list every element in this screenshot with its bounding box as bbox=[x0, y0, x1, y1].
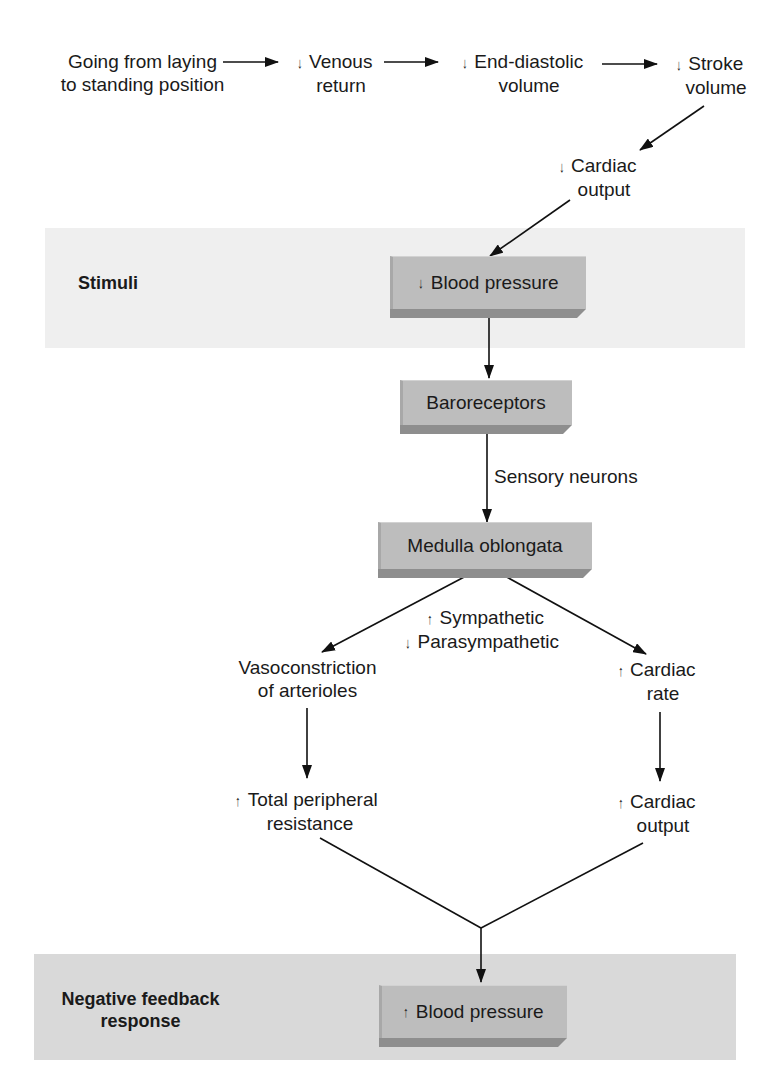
node-posture: Going from laying to standing position bbox=[60, 50, 225, 96]
decrease-arrow-icon: ↓ bbox=[418, 274, 423, 291]
node-venous-return: ↓Venous return bbox=[284, 50, 384, 97]
increase-arrow-icon: ↑ bbox=[427, 607, 432, 630]
node-vasoconstriction: Vasoconstriction of arterioles bbox=[225, 656, 390, 702]
decrease-arrow-icon: ↓ bbox=[297, 51, 302, 74]
node-cardiac-output-decrease: ↓Cardiac output bbox=[552, 154, 642, 201]
node-tpr-line1: Total peripheral bbox=[248, 789, 378, 810]
box-medulla-oblongata-label: Medulla oblongata bbox=[407, 535, 562, 557]
node-cardiac-rate-line2: rate bbox=[608, 682, 704, 705]
node-venous-return-line2: return bbox=[284, 74, 384, 97]
box-baroreceptors: Baroreceptors bbox=[400, 380, 572, 434]
box-blood-pressure-decrease: ↓ Blood pressure bbox=[390, 256, 586, 318]
increase-arrow-icon: ↑ bbox=[403, 1003, 408, 1020]
edge-label-sensory-neurons: Sensory neurons bbox=[494, 465, 638, 488]
node-cardiac-rate-line1: Cardiac bbox=[630, 659, 695, 680]
box-blood-pressure-decrease-label: Blood pressure bbox=[431, 272, 559, 294]
node-cardiac-output-inc-line1: Cardiac bbox=[630, 791, 695, 812]
increase-arrow-icon: ↑ bbox=[618, 791, 623, 814]
node-vasoconstriction-line1: Vasoconstriction bbox=[225, 656, 390, 679]
increase-arrow-icon: ↑ bbox=[618, 659, 623, 682]
decrease-arrow-icon: ↓ bbox=[405, 631, 410, 654]
node-cardiac-output-line2: output bbox=[552, 178, 642, 201]
node-cardiac-output-line1: Cardiac bbox=[571, 155, 636, 176]
box-baroreceptors-label: Baroreceptors bbox=[426, 392, 545, 414]
node-vasoconstriction-line2: of arterioles bbox=[225, 679, 390, 702]
node-cardiac-rate: ↑Cardiac rate bbox=[608, 658, 704, 705]
node-posture-line1: Going from laying bbox=[60, 50, 225, 73]
node-cardiac-output-increase: ↑Cardiac output bbox=[608, 790, 704, 837]
decrease-arrow-icon: ↓ bbox=[676, 53, 681, 76]
box-medulla-oblongata: Medulla oblongata bbox=[378, 522, 592, 578]
parasympathetic-label: Parasympathetic bbox=[418, 631, 560, 652]
decrease-arrow-icon: ↓ bbox=[462, 51, 467, 74]
box-blood-pressure-increase: ↑ Blood pressure bbox=[379, 985, 567, 1047]
edge-label-autonomic: ↑Sympathetic ↓Parasympathetic bbox=[404, 606, 559, 654]
node-edv-line1: End-diastolic bbox=[474, 51, 583, 72]
node-venous-return-line1: Venous bbox=[309, 51, 372, 72]
node-cardiac-output-inc-line2: output bbox=[608, 814, 704, 837]
node-end-diastolic-volume: ↓End-diastolic volume bbox=[442, 50, 602, 97]
increase-arrow-icon: ↑ bbox=[235, 789, 240, 812]
node-total-peripheral-resistance: ↑Total peripheral resistance bbox=[216, 788, 396, 835]
node-posture-line2: to standing position bbox=[60, 73, 225, 96]
node-stroke-volume-line1: Stroke bbox=[688, 53, 743, 74]
node-stroke-volume-line2: volume bbox=[663, 76, 755, 99]
box-blood-pressure-increase-label: Blood pressure bbox=[416, 1001, 544, 1023]
node-stroke-volume: ↓Stroke volume bbox=[663, 52, 755, 99]
node-tpr-line2: resistance bbox=[216, 812, 396, 835]
decrease-arrow-icon: ↓ bbox=[559, 155, 564, 178]
sympathetic-label: Sympathetic bbox=[440, 607, 545, 628]
node-edv-line2: volume bbox=[442, 74, 602, 97]
